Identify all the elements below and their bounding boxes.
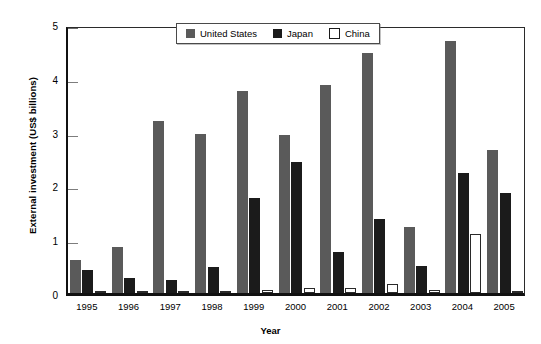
bar-china-1999	[262, 290, 273, 293]
bar-group-1995	[70, 28, 106, 293]
bar-united-states-1999	[237, 91, 248, 293]
bar-china-1996	[137, 291, 148, 293]
y-tick-label-4: 4	[36, 76, 58, 86]
bar-group-2004	[445, 28, 481, 293]
legend-item-china: China	[329, 28, 370, 39]
bar-united-states-1996	[112, 247, 123, 293]
bar-united-states-2004	[445, 41, 456, 293]
x-tick-label-1997: 1997	[150, 301, 190, 312]
bar-united-states-2005	[487, 150, 498, 293]
x-tick-label-1999: 1999	[234, 301, 274, 312]
bar-group-2000	[279, 28, 315, 293]
bar-china-1997	[178, 291, 189, 293]
bar-united-states-2002	[362, 53, 373, 293]
bar-united-states-1998	[195, 134, 206, 293]
x-tick-label-2003: 2003	[401, 301, 441, 312]
bar-japan-2003	[416, 266, 427, 293]
legend-label-china: China	[345, 29, 370, 39]
bar-china-2000	[304, 288, 315, 293]
bar-china-2005	[512, 291, 523, 293]
x-tick-label-1995: 1995	[67, 301, 107, 312]
legend-swatch-icon-japan	[273, 29, 282, 38]
bar-group-1998	[195, 28, 231, 293]
legend-swatch-icon-china	[329, 28, 340, 39]
bar-japan-2000	[291, 162, 302, 293]
bar-china-1995	[95, 291, 106, 293]
chart-legend: United States Japan China	[176, 23, 380, 44]
bar-group-2001	[320, 28, 356, 293]
bar-china-2003	[429, 290, 440, 293]
bar-japan-2004	[458, 173, 469, 294]
bar-chart: External investment (US$ billions) Year …	[0, 0, 541, 344]
x-tick-label-2001: 2001	[317, 301, 357, 312]
bar-united-states-2001	[320, 85, 331, 293]
bar-group-1996	[112, 28, 148, 293]
bar-group-2002	[362, 28, 398, 293]
y-tick-label-1: 1	[36, 237, 58, 247]
bar-united-states-2003	[404, 227, 415, 293]
y-tick-label-2: 2	[36, 183, 58, 193]
bar-japan-2001	[333, 252, 344, 293]
bar-japan-1998	[208, 267, 219, 293]
bar-china-2001	[345, 288, 356, 293]
legend-item-japan: Japan	[273, 29, 313, 39]
legend-item-united-states: United States	[186, 29, 257, 39]
bar-group-1999	[237, 28, 273, 293]
bar-united-states-1995	[70, 260, 81, 293]
x-tick-label-1996: 1996	[109, 301, 149, 312]
bar-china-2004	[470, 234, 481, 293]
x-tick-label-2005: 2005	[484, 301, 524, 312]
bar-group-1997	[153, 28, 189, 293]
bar-japan-1997	[166, 280, 177, 293]
bar-china-2002	[387, 284, 398, 293]
bar-group-2003	[404, 28, 440, 293]
bar-united-states-1997	[153, 121, 164, 293]
bar-united-states-2000	[279, 135, 290, 293]
y-tick-label-5: 5	[36, 22, 58, 32]
bar-series-container	[68, 28, 524, 293]
legend-label-japan: Japan	[287, 29, 313, 39]
y-tick-label-3: 3	[36, 130, 58, 140]
x-tick-label-2000: 2000	[276, 301, 316, 312]
legend-swatch-icon-united-states	[186, 29, 195, 38]
bar-japan-1999	[249, 198, 260, 293]
x-tick-label-2004: 2004	[442, 301, 482, 312]
legend-label-united-states: United States	[200, 29, 257, 39]
bar-group-2005	[487, 28, 523, 293]
bar-japan-2005	[500, 193, 511, 293]
x-tick-label-2002: 2002	[359, 301, 399, 312]
bar-japan-1995	[82, 270, 93, 293]
bar-japan-1996	[124, 278, 135, 293]
plot-area	[66, 27, 525, 296]
y-tick-label-0: 0	[36, 291, 58, 301]
x-tick-label-1998: 1998	[192, 301, 232, 312]
bar-china-1998	[220, 291, 231, 293]
bar-japan-2002	[374, 219, 385, 293]
